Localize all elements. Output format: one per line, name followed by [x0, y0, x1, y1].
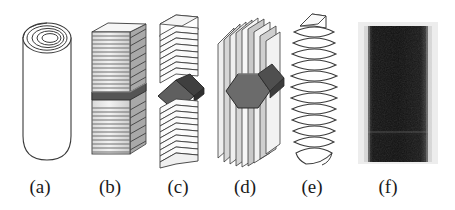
panel-b-stacked-flat-plate-column: [82, 12, 156, 170]
figure-panel-group: (a): [0, 0, 455, 210]
electron-micrograph-graphic: [356, 18, 440, 168]
panel-d-radial-fin-plate-column: [210, 8, 288, 170]
panel-c-stacked-chevron-plate-column: [146, 8, 216, 170]
stacked-flat-plate-column-graphic: [82, 12, 156, 170]
rolled-scroll-cylinder-graphic: [14, 8, 86, 168]
panel-a-caption: (a): [10, 176, 70, 198]
panel-f-caption: (f): [358, 176, 418, 198]
panel-f-electron-micrograph: [356, 18, 440, 168]
panel-e-caption: (e): [282, 176, 342, 198]
radial-fin-plate-column-graphic: [210, 8, 288, 170]
panel-a-rolled-scroll-cylinder: [14, 8, 86, 168]
helical-coil-spiral-graphic: [282, 8, 348, 172]
panel-e-helical-coil-spiral: [282, 8, 348, 172]
panel-d-caption: (d): [215, 176, 275, 198]
stacked-chevron-plate-column-graphic: [146, 8, 216, 170]
panel-c-caption: (c): [148, 176, 208, 198]
panel-b-caption: (b): [80, 176, 140, 198]
